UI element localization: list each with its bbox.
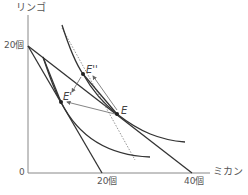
y-axis-label: リンゴ xyxy=(16,3,46,13)
label-e: E xyxy=(121,106,127,116)
compensated-budget-line xyxy=(62,28,135,160)
indifference-curve-upper xyxy=(62,25,185,142)
budget-line-original xyxy=(28,46,192,173)
y-tick-20: 20個 xyxy=(4,41,24,50)
arrow-e-double-prime-to-e-prime xyxy=(72,77,81,92)
point-e xyxy=(115,112,119,116)
origin-label: 0 xyxy=(19,168,25,177)
x-tick-20: 20個 xyxy=(97,177,117,186)
label-e-prime: E' xyxy=(63,92,72,102)
point-e-double-prime xyxy=(81,72,85,76)
x-tick-40: 40個 xyxy=(184,177,204,186)
x-axis-label: ミカン xyxy=(213,167,243,177)
line-e2-to-e xyxy=(83,74,117,114)
label-e-double-prime: E'' xyxy=(86,65,98,75)
indifference-curve-diagram xyxy=(0,0,248,195)
